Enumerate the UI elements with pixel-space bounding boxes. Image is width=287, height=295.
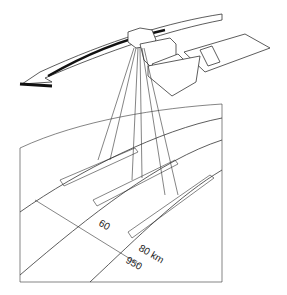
- satellite-icon: [128, 28, 270, 96]
- beam-width-label: 60: [97, 217, 113, 232]
- swath-strips: [60, 148, 214, 238]
- ground-plane: [20, 104, 222, 282]
- satellite-swath-diagram: 60 80 km 950: [0, 0, 287, 295]
- ground-distance-label: 950: [124, 254, 144, 272]
